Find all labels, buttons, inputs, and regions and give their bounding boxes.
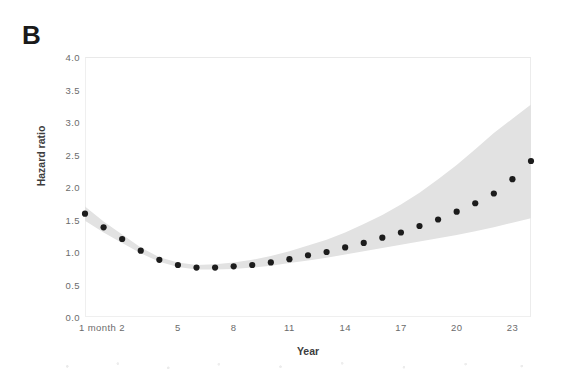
data-point [286, 256, 292, 262]
y-tick-label: 1.0 [46, 247, 80, 258]
x-tick-label: 11 [284, 322, 295, 333]
data-point [323, 249, 329, 255]
x-tick-label: 17 [395, 322, 406, 333]
x-tick-label: 23 [507, 322, 518, 333]
data-point [472, 200, 478, 206]
data-point [361, 240, 367, 246]
x-tick-label: 2 [119, 322, 125, 333]
y-tick-label: 4.0 [46, 52, 80, 63]
data-point [416, 223, 422, 229]
y-axis-tick-labels: 0.00.51.01.52.02.53.03.54.0 [44, 0, 80, 374]
data-point [156, 257, 162, 263]
x-tick-label: 8 [231, 322, 237, 333]
data-point [305, 252, 311, 258]
data-point [138, 248, 144, 254]
data-point [509, 176, 515, 182]
data-point [398, 229, 404, 235]
data-point [342, 244, 348, 250]
data-point [212, 265, 218, 271]
y-tick-label: 0.0 [46, 312, 80, 323]
data-point [100, 224, 106, 230]
y-tick-label: 0.5 [46, 279, 80, 290]
x-tick-label: 1 month [79, 322, 116, 333]
hazard-ratio-figure: B Hazard ratio 0.00.51.01.52.02.53.03.54… [0, 0, 561, 374]
data-point [528, 158, 534, 164]
x-axis-tick-labels: 1 month2581114172023 [0, 322, 561, 340]
y-tick-label: 3.0 [46, 117, 80, 128]
confidence-band-group [85, 104, 531, 269]
scan-artifact-strip [0, 358, 561, 372]
data-point [175, 262, 181, 268]
x-tick-label: 20 [451, 322, 462, 333]
data-point [435, 216, 441, 222]
data-point [82, 211, 88, 217]
data-point [268, 259, 274, 265]
y-tick-label: 1.5 [46, 214, 80, 225]
data-point [231, 263, 237, 269]
x-tick-label: 14 [339, 322, 350, 333]
x-tick-label: 5 [175, 322, 181, 333]
y-tick-label: 2.5 [46, 149, 80, 160]
confidence-band [85, 104, 531, 269]
data-point [379, 235, 385, 241]
data-point [119, 236, 125, 242]
y-tick-label: 2.0 [46, 182, 80, 193]
data-point [193, 265, 199, 271]
data-point [454, 209, 460, 215]
plot-area [85, 57, 531, 317]
x-axis-title: Year [85, 345, 531, 357]
panel-label: B [22, 22, 41, 48]
y-tick-label: 3.5 [46, 84, 80, 95]
data-point [491, 190, 497, 196]
data-point [249, 262, 255, 268]
